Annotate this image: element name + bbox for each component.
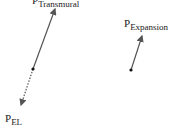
label-p-expansion: PExpansion (124, 18, 168, 29)
expansion-vector (131, 36, 142, 70)
label-p-el: PEL (5, 113, 22, 124)
label-sub: Expansion (130, 22, 168, 32)
label-p-transmural: PTransmural (32, 0, 79, 6)
elastic-vector (21, 69, 33, 105)
origin-dot-right (129, 68, 132, 71)
label-sub: Transmural (38, 0, 79, 9)
label-sub: EL (11, 117, 22, 127)
origin-dot-left (31, 67, 34, 70)
transmural-vector (33, 9, 55, 69)
